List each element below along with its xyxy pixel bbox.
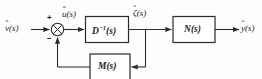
- block-diagram: ˆ v (s) + − ˆ u (s) D−1(s) ˆ ζ (s) N(s) …: [0, 0, 262, 79]
- block-label-d-inverse: D−1(s): [92, 25, 116, 37]
- d-inverse-base: D: [92, 26, 99, 36]
- input-hat-accent: ˆ: [5, 20, 8, 29]
- summing-junction-minus: −: [47, 35, 52, 43]
- summing-junction-plus: +: [47, 14, 52, 22]
- control-arg: (s): [67, 9, 77, 19]
- output-hat-accent: ˆ: [241, 20, 244, 29]
- block-label-m: M(s): [98, 62, 116, 72]
- d-inverse-arg: (s): [106, 26, 116, 36]
- label-control-signal: ˆ u (s): [62, 10, 76, 19]
- output-arg: (s): [245, 23, 255, 33]
- diagram-canvas: [0, 0, 262, 79]
- n-base: N: [184, 24, 191, 34]
- d-inverse-exponent: −1: [99, 24, 106, 31]
- state-hat-accent: ˆ: [133, 5, 136, 14]
- label-state-signal: ˆ ζ (s): [133, 9, 146, 18]
- control-hat-accent: ˆ: [63, 6, 66, 15]
- input-arg: (s): [9, 23, 19, 33]
- block-label-n: N(s): [184, 25, 201, 35]
- m-arg: (s): [106, 61, 116, 71]
- n-arg: (s): [191, 24, 201, 34]
- label-output-signal: ˆ y (s): [241, 24, 255, 33]
- label-input-signal: ˆ v (s): [5, 24, 19, 33]
- state-arg: (s): [137, 8, 147, 18]
